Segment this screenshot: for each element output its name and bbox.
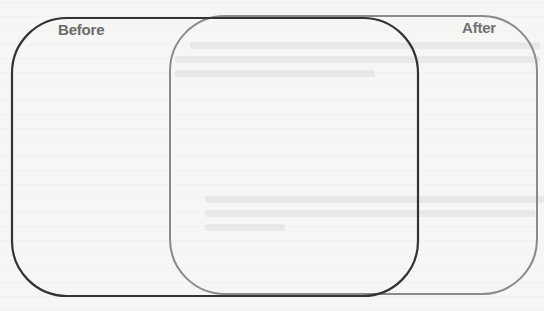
before-set-box <box>12 18 418 296</box>
after-set-box <box>170 16 537 294</box>
before-after-diagram <box>0 0 544 311</box>
before-label: Before <box>58 22 104 37</box>
after-label: After <box>462 20 496 35</box>
